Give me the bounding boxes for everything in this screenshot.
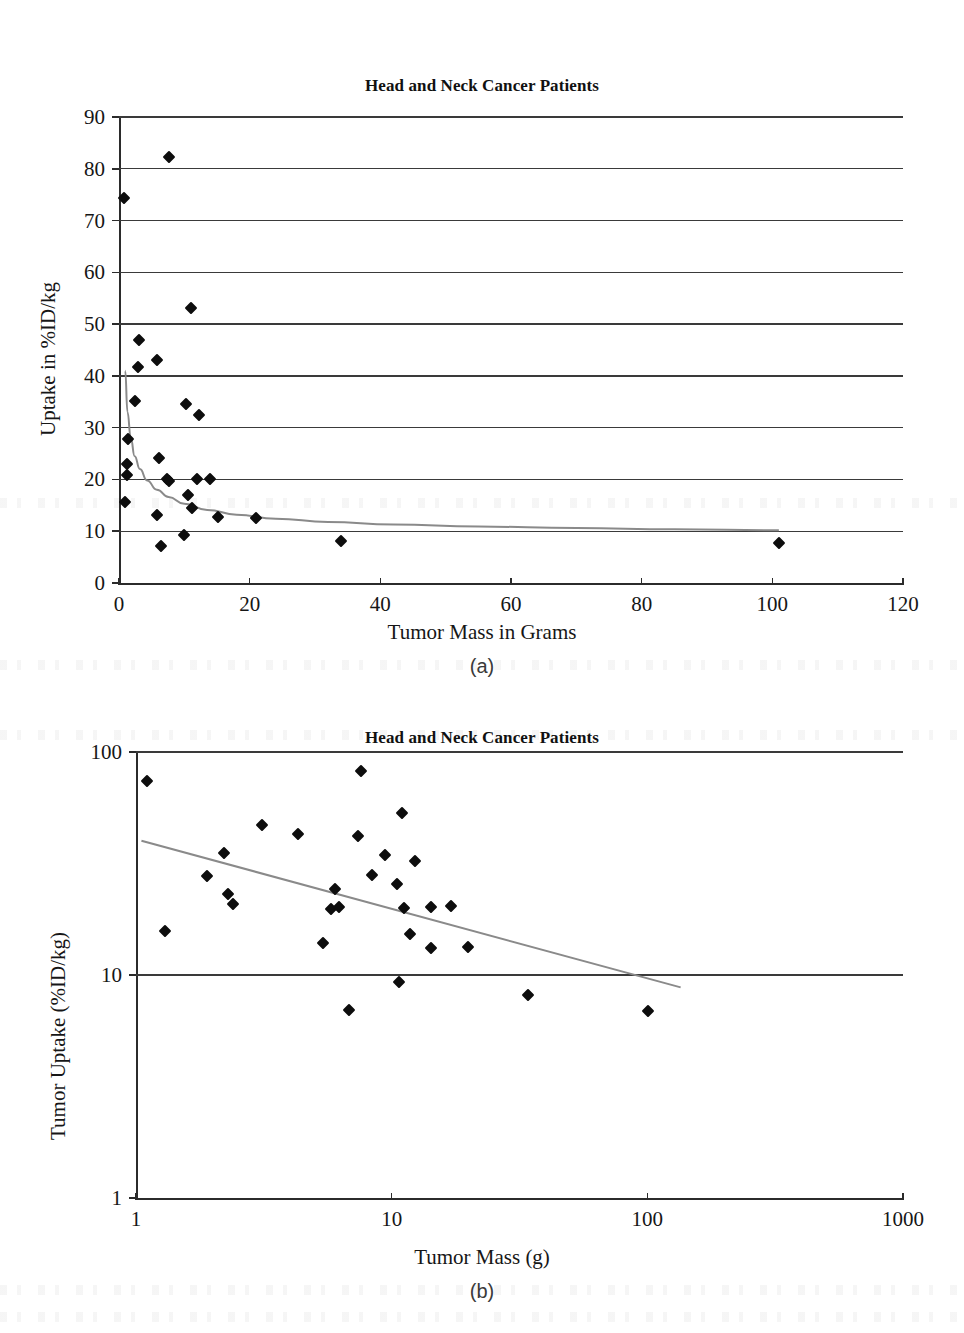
x-axis-tick-label: 0 <box>114 592 125 617</box>
data-point-marker <box>642 1005 655 1018</box>
data-point-marker <box>255 819 268 832</box>
x-axis-tick-label: 100 <box>757 592 789 617</box>
data-point-marker <box>155 540 168 553</box>
data-point-marker <box>204 473 217 486</box>
x-axis-tick-label: 1 <box>131 1207 142 1232</box>
y-axis-tick-label: 10 <box>78 963 122 988</box>
data-point-marker <box>133 334 146 347</box>
y-axis-tick-label: 70 <box>75 208 105 233</box>
y-axis-tick-label: 0 <box>75 571 105 596</box>
x-axis-tick-label: 20 <box>239 592 260 617</box>
x-axis-tick <box>249 578 251 585</box>
data-point-marker <box>128 395 141 408</box>
y-axis-tick-label: 1 <box>78 1186 122 1211</box>
y-axis-tick-label: 20 <box>75 467 105 492</box>
y-axis-tick-label: 50 <box>75 312 105 337</box>
data-point-marker <box>391 878 404 891</box>
trendline <box>119 117 903 583</box>
data-point-marker <box>212 510 225 523</box>
x-axis-title-a: Tumor Mass in Grams <box>0 620 964 645</box>
gridline-horizontal <box>119 479 903 480</box>
chart-panel-b: Head and Neck Cancer Patients 1101001101… <box>0 700 964 1333</box>
data-point-marker <box>329 883 342 896</box>
data-point-marker <box>396 807 409 820</box>
gridline-horizontal <box>136 974 903 975</box>
y-axis-tick <box>112 220 119 222</box>
x-axis-tick-label: 60 <box>501 592 522 617</box>
data-point-marker <box>425 942 438 955</box>
y-axis-tick-label: 80 <box>75 156 105 181</box>
gridline-horizontal <box>119 323 903 324</box>
data-point-marker <box>342 1003 355 1016</box>
data-point-marker <box>335 534 348 547</box>
y-axis-title-b: Tumor Uptake (%ID/kg) <box>46 932 71 1140</box>
y-axis-tick-label: 90 <box>75 105 105 130</box>
data-point-marker <box>184 302 197 315</box>
data-point-marker <box>151 508 164 521</box>
y-axis-line-a <box>119 117 121 583</box>
y-axis-tick <box>112 530 119 532</box>
y-axis-tick <box>112 427 119 429</box>
y-axis-tick <box>129 974 136 976</box>
y-axis-tick <box>112 375 119 377</box>
data-point-marker <box>461 941 474 954</box>
x-axis-tick <box>772 578 774 585</box>
x-axis-tick <box>510 578 512 585</box>
data-point-marker <box>355 765 368 778</box>
data-point-marker <box>772 537 785 550</box>
data-point-marker <box>292 827 305 840</box>
gridline-horizontal <box>119 531 903 532</box>
data-point-marker <box>352 830 365 843</box>
y-axis-tick-label: 60 <box>75 260 105 285</box>
data-point-marker <box>159 925 172 938</box>
chart-title-b: Head and Neck Cancer Patients <box>0 728 964 748</box>
data-point-marker <box>366 869 379 882</box>
gridline-horizontal <box>119 168 903 169</box>
y-axis-tick <box>112 479 119 481</box>
x-axis-tick <box>391 1193 393 1200</box>
data-point-marker <box>201 869 214 882</box>
data-point-marker <box>217 847 230 860</box>
y-axis-tick <box>112 323 119 325</box>
x-axis-tick-label: 120 <box>887 592 919 617</box>
chart-title-a: Head and Neck Cancer Patients <box>0 76 964 96</box>
gridline-horizontal <box>119 375 903 376</box>
data-point-marker <box>140 774 153 787</box>
y-axis-tick-label: 10 <box>75 519 105 544</box>
data-point-marker <box>378 848 391 861</box>
data-point-marker <box>162 151 175 164</box>
y-axis-tick <box>112 116 119 118</box>
x-axis-tick-label: 10 <box>381 1207 402 1232</box>
subplot-label-a: (a) <box>0 655 964 678</box>
chart-panel-a: Head and Neck Cancer Patients 0102030405… <box>0 0 964 700</box>
x-axis-tick-label: 40 <box>370 592 391 617</box>
subplot-label-b: (b) <box>0 1280 964 1303</box>
gridline-horizontal <box>136 751 903 752</box>
x-axis-title-b: Tumor Mass (g) <box>0 1245 964 1270</box>
data-point-marker <box>193 409 206 422</box>
x-axis-tick <box>647 1193 649 1200</box>
data-point-marker <box>425 901 438 914</box>
data-point-marker <box>398 901 411 914</box>
data-point-marker <box>393 976 406 989</box>
data-point-marker <box>317 937 330 950</box>
x-axis-tick <box>902 578 904 585</box>
x-axis-tick <box>902 1193 904 1200</box>
data-point-marker <box>181 489 194 502</box>
y-axis-tick <box>129 751 136 753</box>
data-point-marker <box>408 855 421 868</box>
data-point-marker <box>191 473 204 486</box>
data-point-marker <box>122 432 135 445</box>
y-axis-tick <box>112 272 119 274</box>
x-axis-tick <box>135 1193 137 1200</box>
gridline-horizontal <box>119 116 903 117</box>
x-axis-tick <box>380 578 382 585</box>
gridline-horizontal <box>119 427 903 428</box>
figure-page: Head and Neck Cancer Patients 0102030405… <box>0 0 964 1333</box>
data-point-marker <box>132 360 145 373</box>
data-point-marker <box>180 397 193 410</box>
gridline-horizontal <box>119 220 903 221</box>
y-axis-tick-label: 100 <box>78 740 122 765</box>
x-axis-tick <box>118 578 120 585</box>
x-axis-line-b <box>136 1198 903 1200</box>
